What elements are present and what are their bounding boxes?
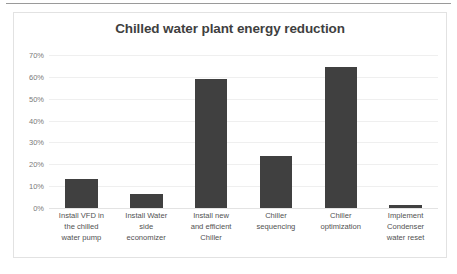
gridline bbox=[49, 142, 438, 143]
bar[interactable] bbox=[195, 79, 228, 208]
y-axis-tick-label: 60% bbox=[29, 72, 44, 81]
x-axis-tick-label: Implement Condenser water reset bbox=[373, 210, 438, 244]
x-axis-tick-label: Install new and efficient Chiller bbox=[179, 210, 244, 244]
chart-container[interactable]: Chilled water plant energy reduction 70%… bbox=[13, 12, 447, 258]
gridline bbox=[49, 164, 438, 165]
gridline bbox=[49, 55, 438, 56]
y-axis-tick-label: 50% bbox=[29, 94, 44, 103]
gridline bbox=[49, 77, 438, 78]
x-axis-category-labels: Install VFD in the chilled water pumpIns… bbox=[49, 210, 438, 256]
bar[interactable] bbox=[260, 156, 293, 208]
x-axis-tick-label: Install VFD in the chilled water pump bbox=[49, 210, 114, 244]
y-axis-tick-label: 10% bbox=[29, 182, 44, 191]
bar[interactable] bbox=[130, 194, 163, 208]
gridline bbox=[49, 99, 438, 100]
plot-area: 70%60%50%40%30%20%10%0% bbox=[49, 55, 438, 208]
chart-title: Chilled water plant energy reduction bbox=[14, 21, 446, 36]
x-axis-tick-label: Chiller sequencing bbox=[244, 210, 309, 232]
y-axis-tick-label: 40% bbox=[29, 116, 44, 125]
gridline bbox=[49, 121, 438, 122]
top-horizontal-rule bbox=[6, 3, 451, 4]
y-axis-tick-label: 30% bbox=[29, 138, 44, 147]
x-axis-tick-label: Chiller optimization bbox=[308, 210, 373, 232]
y-axis-tick-label: 0% bbox=[33, 204, 44, 213]
bar[interactable] bbox=[325, 67, 358, 208]
x-axis-tick-label: Install Water side economizer bbox=[114, 210, 179, 244]
page-canvas: Chilled water plant energy reduction 70%… bbox=[0, 0, 457, 274]
y-axis-tick-label: 20% bbox=[29, 160, 44, 169]
y-axis-tick-label: 70% bbox=[29, 51, 44, 60]
bar[interactable] bbox=[389, 205, 422, 208]
axis-baseline bbox=[49, 208, 438, 209]
gridline bbox=[49, 186, 438, 187]
bar[interactable] bbox=[65, 179, 98, 209]
